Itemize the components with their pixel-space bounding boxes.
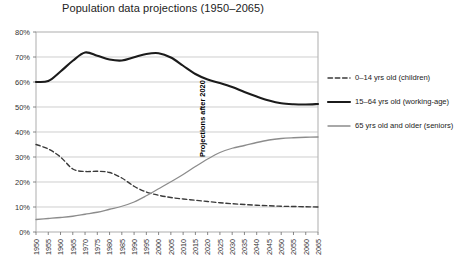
y-axis-tick-label: 10% xyxy=(15,203,30,212)
x-axis-tick-label: 2020 xyxy=(203,239,212,255)
y-axis-tick-label: 70% xyxy=(15,53,30,62)
x-axis-tick-label: 2035 xyxy=(240,239,249,255)
x-axis-tick-label: 2005 xyxy=(167,239,176,255)
annotation-label: Projections after 2020 xyxy=(198,80,207,157)
population-projections-chart: Population data projections (1950–2065) … xyxy=(0,0,475,268)
x-axis-tick-label: 2015 xyxy=(191,239,200,255)
chart-canvas: 0%10%20%30%40%50%60%70%80%19501955196019… xyxy=(0,0,475,268)
x-axis-tick-label: 2025 xyxy=(216,239,225,255)
y-axis-tick-label: 20% xyxy=(15,178,30,187)
x-axis-tick-label: 1950 xyxy=(32,239,41,255)
y-axis-tick-label: 30% xyxy=(15,153,30,162)
x-axis-tick-label: 1980 xyxy=(105,239,114,255)
y-axis-tick-label: 0% xyxy=(19,228,30,237)
y-axis-tick-label: 80% xyxy=(15,28,30,37)
y-axis-tick-label: 60% xyxy=(15,78,30,87)
x-axis-tick-label: 1965 xyxy=(69,239,78,255)
x-axis-tick-label: 2050 xyxy=(277,239,286,255)
x-axis-tick-label: 1995 xyxy=(142,239,151,255)
x-axis-tick-label: 1990 xyxy=(130,239,139,255)
x-axis-tick-label: 2065 xyxy=(314,239,323,255)
x-axis-tick-label: 2055 xyxy=(289,239,298,255)
annotation-projections: Projections after 2020 xyxy=(198,80,207,157)
y-axis-tick-label: 40% xyxy=(15,128,30,137)
legend-label-1: 15–64 yrs old (working-age) xyxy=(355,97,450,106)
x-axis-tick-label: 1985 xyxy=(118,239,127,255)
x-axis-tick-label: 1975 xyxy=(93,239,102,255)
y-axis-tick-label: 50% xyxy=(15,103,30,112)
x-axis-tick-label: 1970 xyxy=(81,239,90,255)
x-axis-tick-label: 1955 xyxy=(44,239,53,255)
x-axis-tick-label: 2010 xyxy=(179,239,188,255)
x-axis-tick-label: 2045 xyxy=(265,239,274,255)
x-axis-tick-label: 2060 xyxy=(302,239,311,255)
x-axis-tick-label: 2030 xyxy=(228,239,237,255)
legend-label-0: 0–14 yrs old (children) xyxy=(355,73,431,82)
x-axis-tick-label: 1960 xyxy=(56,239,65,255)
x-axis-tick-label: 2000 xyxy=(154,239,163,255)
x-axis-tick-label: 2040 xyxy=(252,239,261,255)
legend-label-2: 65 yrs old and older (seniors) xyxy=(355,121,454,130)
